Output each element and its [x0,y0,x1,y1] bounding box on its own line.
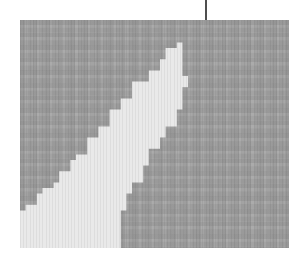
light-region [20,20,289,248]
raster-map [20,20,289,248]
light-region-shape [20,20,289,248]
figure-canvas [0,0,299,262]
